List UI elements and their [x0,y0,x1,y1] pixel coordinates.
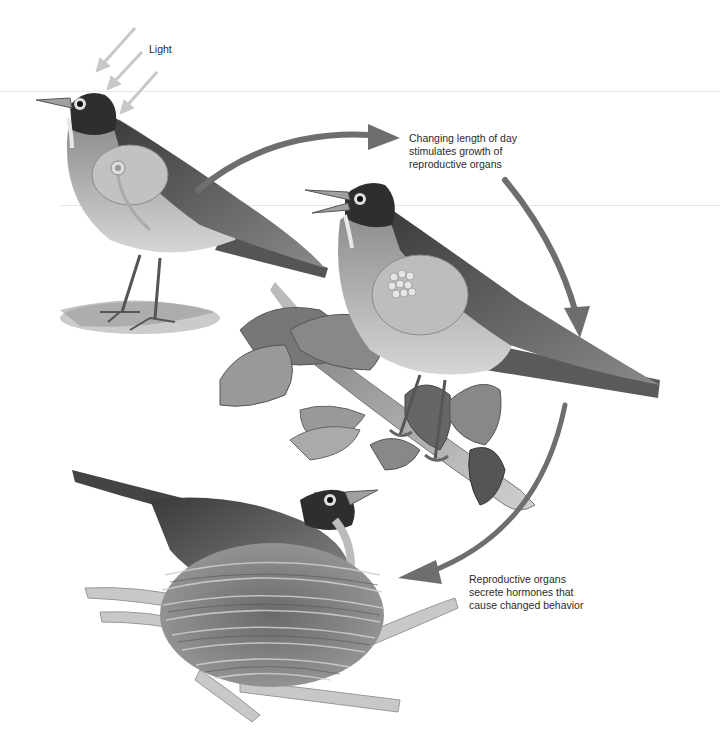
light-label: Light [149,43,172,56]
stage2-caption: Reproductive organs secrete hormones tha… [469,573,583,612]
robin-cycle-diagram: Light Changing length of day stimulates … [0,0,720,741]
stage1-caption: Changing length of day stimulates growth… [409,132,517,171]
nest-illustration [160,543,384,687]
cycle-arrow-1-icon [198,124,400,190]
diagram-artwork [0,0,720,741]
stage2-caption-line: secrete hormones that [469,586,583,599]
stage1-caption-line: reproductive organs [409,158,517,171]
stage2-caption-line: Reproductive organs [469,573,583,586]
stage1-caption-line: Changing length of day [409,132,517,145]
stage2-caption-line: cause changed behavior [469,599,583,612]
stage1-caption-line: stimulates growth of [409,145,517,158]
